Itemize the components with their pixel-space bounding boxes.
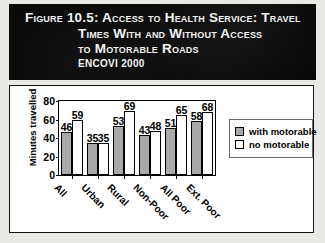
bar-group: 4659 [61,101,83,175]
bar[interactable]: 65 [176,115,187,175]
bar-value-label: 35 [98,133,110,144]
x-axis-label: Rural [105,182,131,208]
legend-swatch-icon [235,127,244,136]
bar-value-label: 51 [165,118,177,129]
bar-value-label: 68 [202,102,214,113]
bar-value-label: 48 [150,121,162,132]
legend-item[interactable]: with motorable [235,126,307,137]
y-tick-label: 40 [43,132,55,144]
y-axis-title: Minutes travelled [27,85,38,171]
y-tick-label: 80 [43,95,55,107]
bar-group: 5369 [113,101,135,175]
y-tick-label: 60 [43,114,55,126]
figure-source-label: ENCOVI 2000 [25,58,310,70]
figure-title-line-3: to Motorable Roads [25,41,310,57]
bar[interactable]: 59 [72,120,83,175]
bar-group: 3535 [87,101,109,175]
bar[interactable]: 35 [98,143,109,175]
figure-header: Figure 10.5: Access to Health Service: T… [9,4,316,80]
plot-area: 020406080 465935355369434851655868 [58,100,216,176]
bar[interactable]: 43 [139,135,150,175]
legend-item[interactable]: no motorable [235,139,307,150]
x-axis-label: Urban [79,182,107,210]
legend-label: with motorable [249,126,317,137]
bar[interactable]: 53 [113,126,124,175]
x-axis-label: All [52,182,69,199]
bar[interactable]: 69 [124,111,135,175]
y-tick-label: 20 [43,151,55,163]
x-tick-mark [176,175,177,179]
x-tick-mark [124,175,125,179]
figure-container: Figure 10.5: Access to Health Service: T… [0,0,325,243]
x-axis-label: Ext. Poor [184,182,223,221]
bar-value-label: 35 [87,133,99,144]
bar[interactable]: 68 [202,112,213,175]
chart-legend: with motorableno motorable [229,119,313,158]
bar-value-label: 59 [72,110,84,121]
bar-value-label: 53 [113,116,125,127]
x-tick-mark [202,175,203,179]
x-axis-labels: AllUrbanRuralNon-PoorAll PoorExt. Poor [58,182,216,226]
x-tick-mark [150,175,151,179]
bar-group: 4348 [139,101,161,175]
bar-value-label: 58 [191,111,203,122]
bar-groups: 465935355369434851655868 [59,101,215,175]
figure-title-line-2: Times With and Without Access [25,26,310,42]
legend-swatch-icon [235,140,244,149]
bar-value-label: 69 [124,101,136,112]
x-tick-mark [98,175,99,179]
bar[interactable]: 48 [150,131,161,175]
bar-value-label: 46 [61,122,73,133]
bar-value-label: 65 [176,105,188,116]
y-tick-label: 0 [49,169,55,181]
figure-title-line-1: Figure 10.5: Access to Health Service: T… [25,10,310,26]
figure-title-block: Figure 10.5: Access to Health Service: T… [25,10,310,70]
bar[interactable]: 35 [87,143,98,175]
chart-panel: Minutes travelled 020406080 465935355369… [9,85,314,233]
bar[interactable]: 46 [61,132,72,175]
bar[interactable]: 58 [191,121,202,175]
legend-label: no motorable [249,139,309,150]
bar[interactable]: 51 [165,128,176,175]
bar-group: 5165 [165,101,187,175]
bar-value-label: 43 [139,125,151,136]
x-tick-mark [72,175,73,179]
bar-group: 5868 [191,101,213,175]
